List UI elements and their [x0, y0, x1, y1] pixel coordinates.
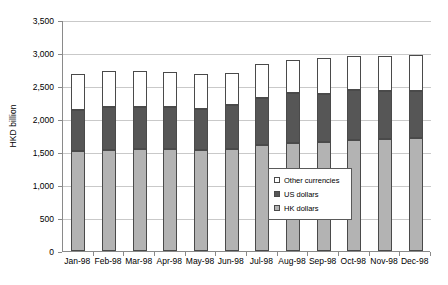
legend-swatch-icon	[274, 177, 280, 183]
x-axis-tick-label: Feb-98	[93, 256, 124, 266]
gridline	[63, 120, 431, 121]
bar-group[interactable]	[133, 20, 147, 251]
y-axis-tick-mark	[58, 252, 62, 253]
legend-item-label: Other currencies	[284, 176, 339, 185]
bar-segment-other-currencies[interactable]	[225, 73, 239, 104]
y-axis-tick-label: 1,000	[0, 181, 54, 191]
y-axis-tick-label: 2,500	[0, 82, 54, 92]
bar-segment-other-currencies[interactable]	[133, 71, 147, 107]
x-axis-tick-label: Jan-98	[62, 256, 93, 266]
bar-segment-other-currencies[interactable]	[378, 56, 392, 90]
x-axis-tick-label: May-98	[185, 256, 216, 266]
x-axis-tick-mark	[430, 252, 431, 256]
x-axis-tick-label: Dec-98	[399, 256, 430, 266]
bar-segment-us-dollars[interactable]	[225, 105, 239, 149]
chart-legend: Other currenciesUS dollarsHK dollars	[268, 168, 352, 220]
bar-group[interactable]	[225, 20, 239, 251]
bar-segment-other-currencies[interactable]	[409, 55, 423, 92]
bar-segment-other-currencies[interactable]	[347, 56, 361, 90]
stacked-bar-chart: HKD billion 05001,0001,5002,0002,5003,00…	[0, 0, 448, 285]
bar-segment-other-currencies[interactable]	[102, 71, 116, 107]
bar-segment-us-dollars[interactable]	[255, 98, 269, 145]
bar-group[interactable]	[71, 20, 85, 251]
bar-segment-hk-dollars[interactable]	[163, 149, 177, 251]
y-axis-title-text: HKD billion	[8, 104, 18, 147]
x-axis-tick-label: Jun-98	[215, 256, 246, 266]
bar-group[interactable]	[102, 20, 116, 251]
y-axis-tick-label: 0	[0, 247, 54, 257]
bar-segment-other-currencies[interactable]	[317, 58, 331, 94]
bar-segment-other-currencies[interactable]	[194, 74, 208, 109]
bar-segment-hk-dollars[interactable]	[71, 151, 85, 251]
bar-segment-hk-dollars[interactable]	[133, 149, 147, 251]
bar-segment-other-currencies[interactable]	[71, 74, 85, 110]
bar-segment-us-dollars[interactable]	[317, 94, 331, 142]
y-axis-tick-label: 3,500	[0, 16, 54, 26]
bar-segment-us-dollars[interactable]	[378, 91, 392, 140]
legend-item-label: US dollars	[284, 190, 319, 199]
bar-segment-other-currencies[interactable]	[286, 60, 300, 93]
x-axis-tick-label: Oct-98	[338, 256, 369, 266]
x-axis-tick-label: Sep-98	[307, 256, 338, 266]
bar-segment-us-dollars[interactable]	[71, 110, 85, 152]
y-axis-tick-label: 500	[0, 214, 54, 224]
bar-segment-hk-dollars[interactable]	[378, 139, 392, 251]
bar-group[interactable]	[163, 20, 177, 251]
plot-area	[62, 21, 430, 252]
x-axis-tick-label: Aug-98	[277, 256, 308, 266]
legend-item-label: HK dollars	[284, 204, 319, 213]
bar-segment-hk-dollars[interactable]	[194, 150, 208, 251]
y-axis-tick-label: 1,500	[0, 148, 54, 158]
x-axis-tick-label: Jul-98	[246, 256, 277, 266]
bar-segment-hk-dollars[interactable]	[409, 138, 423, 251]
x-axis-tick-label: Mar-98	[123, 256, 154, 266]
gridline	[63, 219, 431, 220]
legend-swatch-icon	[274, 191, 280, 197]
bar-segment-hk-dollars[interactable]	[225, 149, 239, 251]
legend-item[interactable]: HK dollars	[274, 201, 347, 215]
legend-item[interactable]: US dollars	[274, 187, 347, 201]
gridline	[63, 21, 431, 22]
gridline	[63, 54, 431, 55]
gridline	[63, 153, 431, 154]
bar-group[interactable]	[409, 20, 423, 251]
x-axis-tick-label: Nov-98	[369, 256, 400, 266]
bar-segment-us-dollars[interactable]	[347, 90, 361, 140]
bar-segment-other-currencies[interactable]	[163, 72, 177, 108]
bar-segment-us-dollars[interactable]	[409, 91, 423, 138]
bar-group[interactable]	[194, 20, 208, 251]
bar-segment-us-dollars[interactable]	[102, 107, 116, 150]
bar-segment-us-dollars[interactable]	[163, 107, 177, 148]
y-axis-tick-label: 3,000	[0, 49, 54, 59]
bar-group[interactable]	[378, 20, 392, 251]
bar-segment-other-currencies[interactable]	[255, 64, 269, 98]
bar-segment-us-dollars[interactable]	[286, 93, 300, 143]
x-axis-tick-label: Apr-98	[154, 256, 185, 266]
bar-segment-us-dollars[interactable]	[133, 107, 147, 149]
y-axis-tick-label: 2,000	[0, 115, 54, 125]
bar-segment-hk-dollars[interactable]	[102, 150, 116, 251]
gridline	[63, 87, 431, 88]
bar-segment-us-dollars[interactable]	[194, 109, 208, 150]
legend-swatch-icon	[274, 205, 280, 211]
legend-item[interactable]: Other currencies	[274, 173, 347, 187]
gridline	[63, 186, 431, 187]
